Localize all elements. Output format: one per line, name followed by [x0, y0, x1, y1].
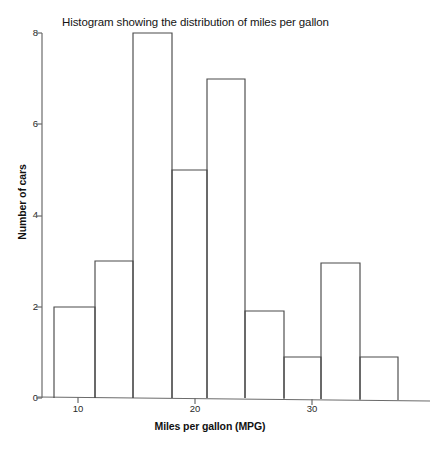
- y-tick-marks: [36, 33, 42, 398]
- plot-area: [0, 0, 437, 453]
- histogram-bar: [321, 263, 360, 399]
- histogram-bar: [207, 79, 245, 398]
- histogram-bar: [95, 261, 133, 398]
- histogram-figure: Histogram showing the distribution of mi…: [0, 0, 437, 453]
- histogram-bars: [54, 33, 398, 400]
- histogram-bar: [284, 357, 321, 399]
- histogram-bar: [172, 170, 207, 398]
- histogram-bar: [245, 311, 284, 398]
- x-axis-line: [38, 397, 430, 401]
- histogram-bar: [360, 357, 398, 400]
- histogram-bar: [54, 307, 95, 398]
- histogram-bar: [133, 33, 172, 398]
